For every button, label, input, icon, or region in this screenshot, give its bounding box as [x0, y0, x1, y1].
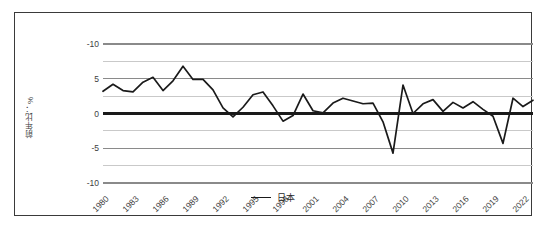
- y-tick-label: -10: [65, 178, 99, 188]
- y-tick-label: 5: [65, 74, 99, 84]
- y-tick-label: -10: [65, 39, 99, 49]
- legend-label-japan: 日本: [277, 191, 295, 204]
- y-tick-label: 0: [65, 109, 99, 119]
- y-axis-title: 前年比：%: [23, 69, 37, 165]
- y-tick-label: -5: [65, 143, 99, 153]
- chart-frame: 前年比：% -1050-5-10 19801983198619891992199…: [14, 12, 532, 216]
- legend-line-swatch: [251, 197, 271, 198]
- chart-legend: 日本: [15, 191, 531, 204]
- y-axis-tick-labels: -1050-5-10: [61, 44, 99, 183]
- plot-area: [103, 44, 533, 183]
- plot-svg: [103, 44, 533, 183]
